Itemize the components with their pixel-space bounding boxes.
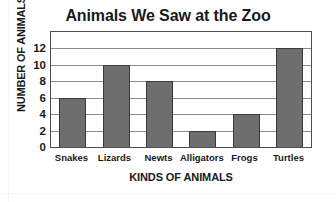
scan-edge-artifact-left	[8, 0, 9, 202]
bar-newts	[146, 81, 173, 147]
y-tick-label: 8	[28, 75, 46, 87]
x-tick-label: Alligators	[180, 151, 223, 164]
y-tick-label: 2	[28, 125, 46, 137]
x-tick-label: Frogs	[223, 151, 266, 164]
y-tick-label: 10	[28, 59, 46, 71]
y-tick-label: 6	[28, 92, 46, 104]
bar-alligators	[189, 131, 216, 147]
y-axis-tick-labels: 024681012	[26, 31, 46, 148]
plot-area	[50, 31, 312, 148]
bar-turtles	[276, 48, 303, 147]
y-tick-label: 0	[28, 141, 46, 153]
bar-snakes	[59, 98, 86, 147]
bar-series	[51, 32, 311, 147]
x-tick-label: Newts	[137, 151, 180, 164]
x-axis-title: KINDS OF ANIMALS	[50, 170, 312, 184]
x-tick-label: Lizards	[93, 151, 136, 164]
x-axis-tick-labels: SnakesLizardsNewtsAlligatorsFrogsTurtles	[50, 151, 312, 165]
bar-frogs	[233, 114, 260, 147]
chart-title: Animals We Saw at the Zoo	[0, 6, 336, 26]
scan-edge-artifact-bottom	[0, 193, 336, 194]
x-tick-label: Turtles	[267, 151, 310, 164]
bar-chart-figure: Animals We Saw at the Zoo NUMBER OF ANIM…	[0, 0, 336, 202]
x-tick-label: Snakes	[50, 151, 93, 164]
y-tick-label: 4	[28, 108, 46, 120]
bar-lizards	[103, 65, 130, 147]
y-tick-label: 12	[28, 42, 46, 54]
